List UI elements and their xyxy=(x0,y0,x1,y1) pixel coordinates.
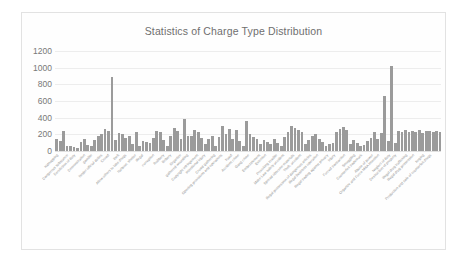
chart-title: Statistics of Charge Type Distribution xyxy=(22,25,445,37)
bar xyxy=(90,146,93,151)
bar xyxy=(155,131,158,151)
y-axis-tick: 400 xyxy=(38,113,52,122)
plot-wrapper: 020040060080010001200 xyxy=(22,51,447,151)
bar xyxy=(225,134,228,151)
bar xyxy=(383,96,386,151)
bar xyxy=(149,143,152,151)
x-axis-labels: KidnappingDangerous substanceDereliction… xyxy=(55,153,439,248)
bar xyxy=(59,141,62,151)
bar xyxy=(273,139,276,152)
y-axis-tick: 800 xyxy=(38,80,52,89)
bar xyxy=(397,131,400,151)
bar xyxy=(190,136,193,151)
bar xyxy=(411,131,414,151)
bar xyxy=(428,131,431,151)
plot-area xyxy=(55,51,441,151)
bar xyxy=(408,132,411,151)
bar xyxy=(142,141,145,151)
bar xyxy=(269,144,272,151)
bar xyxy=(76,148,79,151)
y-axis-tick: 200 xyxy=(38,130,52,139)
bar xyxy=(404,130,407,151)
bar-series xyxy=(55,51,441,151)
bar xyxy=(380,133,383,151)
bar xyxy=(290,126,293,151)
bar xyxy=(152,138,155,151)
bar xyxy=(173,128,176,151)
bar xyxy=(228,129,231,151)
bar xyxy=(359,146,362,151)
bar xyxy=(297,130,300,151)
bar xyxy=(162,140,165,151)
bar xyxy=(80,142,83,151)
bar xyxy=(321,142,324,151)
bar xyxy=(104,129,107,151)
bar xyxy=(62,131,65,151)
bar xyxy=(352,140,355,151)
bar xyxy=(100,134,103,152)
bar xyxy=(370,138,373,151)
bar xyxy=(342,127,345,151)
bar xyxy=(339,129,342,151)
bar xyxy=(304,144,307,151)
bar xyxy=(242,146,245,151)
bar xyxy=(55,139,58,152)
y-axis-tick: 600 xyxy=(38,97,52,106)
bar xyxy=(214,146,217,151)
bar xyxy=(145,142,148,151)
bar xyxy=(180,139,183,152)
bar xyxy=(135,132,138,151)
bar xyxy=(294,128,297,151)
bar xyxy=(221,126,224,151)
y-axis-tick: 1200 xyxy=(33,47,52,56)
gridline xyxy=(55,151,441,152)
bar xyxy=(311,136,314,151)
bar xyxy=(373,132,376,151)
bar xyxy=(356,143,359,151)
bar xyxy=(211,136,214,151)
bar xyxy=(263,140,266,151)
y-axis: 020040060080010001200 xyxy=(22,51,55,151)
bar xyxy=(318,139,321,152)
bar xyxy=(256,139,259,152)
bar xyxy=(166,146,169,151)
bar xyxy=(390,66,393,151)
bar xyxy=(325,146,328,151)
y-axis-tick: 0 xyxy=(47,147,52,156)
bar xyxy=(387,141,390,151)
bar xyxy=(280,146,283,151)
bar xyxy=(138,146,141,151)
bar xyxy=(111,77,114,151)
bar xyxy=(414,132,417,151)
bar xyxy=(118,133,121,151)
bar xyxy=(231,139,234,152)
bar xyxy=(176,131,179,151)
bar xyxy=(394,143,397,151)
bar xyxy=(432,132,435,151)
bar xyxy=(93,140,96,151)
bar xyxy=(124,138,127,151)
x-axis-label-slot xyxy=(435,153,438,248)
bar xyxy=(187,136,190,151)
bar xyxy=(86,145,89,151)
bar xyxy=(73,147,76,151)
bar xyxy=(107,131,110,151)
y-axis-tick: 1000 xyxy=(33,63,52,72)
bar xyxy=(314,134,317,151)
bar xyxy=(439,132,442,151)
bar xyxy=(349,144,352,151)
bar xyxy=(159,132,162,151)
bar xyxy=(218,137,221,151)
bar xyxy=(401,132,404,151)
bar xyxy=(83,139,86,152)
bar xyxy=(66,146,69,151)
bar xyxy=(307,140,310,151)
bar xyxy=(235,130,238,151)
bar xyxy=(435,131,438,151)
bar xyxy=(69,146,72,151)
bar xyxy=(266,142,269,151)
bar xyxy=(200,138,203,151)
bar xyxy=(238,141,241,151)
bar xyxy=(287,132,290,151)
bar xyxy=(301,132,304,151)
